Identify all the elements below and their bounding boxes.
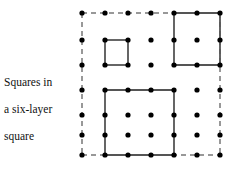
lattice-dot bbox=[194, 37, 199, 42]
lattice-dot bbox=[171, 112, 176, 117]
solid-squares-group bbox=[105, 13, 220, 155]
lattice-dot bbox=[217, 37, 222, 42]
lattice-dot bbox=[125, 112, 130, 117]
lattice-dot bbox=[194, 87, 199, 92]
lattice-dot bbox=[217, 62, 222, 67]
lattice-dot bbox=[171, 132, 176, 137]
lattice-dot bbox=[171, 10, 176, 15]
lattice-dot bbox=[148, 10, 153, 15]
lattice-dot bbox=[79, 62, 84, 67]
lattice-dot bbox=[217, 152, 222, 157]
lattice-dot bbox=[194, 62, 199, 67]
lattice-dot bbox=[171, 37, 176, 42]
lattice-dot bbox=[217, 87, 222, 92]
lattice-dot bbox=[148, 62, 153, 67]
lattice-dot bbox=[102, 152, 107, 157]
lattice-dot bbox=[194, 112, 199, 117]
lattice-dot bbox=[148, 152, 153, 157]
lattice-dot bbox=[125, 132, 130, 137]
lattice-dot bbox=[125, 87, 130, 92]
lattice-dot bbox=[125, 10, 130, 15]
lattice-dot bbox=[79, 87, 84, 92]
lattice-dot bbox=[79, 152, 84, 157]
lattice-dot bbox=[148, 87, 153, 92]
lattice-dot bbox=[148, 112, 153, 117]
lattice-dot bbox=[148, 132, 153, 137]
lattice-dot bbox=[79, 112, 84, 117]
lattice-dot bbox=[217, 10, 222, 15]
lattice-dot bbox=[79, 132, 84, 137]
lattice-dot bbox=[217, 132, 222, 137]
lattice-dot bbox=[102, 112, 107, 117]
lattice-dot bbox=[125, 152, 130, 157]
lattice-dot bbox=[171, 62, 176, 67]
lattice-dot bbox=[194, 10, 199, 15]
lattice-dot bbox=[125, 62, 130, 67]
lattice-dot bbox=[171, 87, 176, 92]
lattice-dot bbox=[102, 87, 107, 92]
lattice-dots-group bbox=[79, 10, 222, 157]
lattice-dot bbox=[79, 10, 84, 15]
lattice-dot bbox=[194, 152, 199, 157]
lattice-dot bbox=[102, 62, 107, 67]
lattice-dot bbox=[171, 152, 176, 157]
lattice-dot bbox=[194, 132, 199, 137]
lattice-dot bbox=[102, 132, 107, 137]
lattice-diagram bbox=[0, 0, 240, 170]
lattice-dot bbox=[102, 37, 107, 42]
lattice-dot bbox=[102, 10, 107, 15]
figure-panel: Squares in a six-layer square bbox=[0, 0, 240, 170]
lattice-dot bbox=[217, 112, 222, 117]
lattice-dot bbox=[148, 37, 153, 42]
lattice-dot bbox=[125, 37, 130, 42]
lattice-dot bbox=[79, 37, 84, 42]
